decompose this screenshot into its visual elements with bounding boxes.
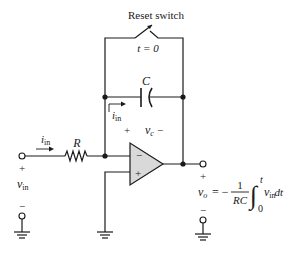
input-voltage-label: vin [17,177,29,192]
output-terminal-bottom[interactable] [200,217,206,223]
output-plus: + [200,170,206,182]
current-label-feedback: iin [112,109,121,123]
capacitor-label: C [142,74,151,88]
resistor [65,151,87,161]
vc-label: vc [145,123,154,138]
formula-equals: = − [212,185,229,199]
differential: dt [274,186,284,198]
ground-icon [97,232,113,238]
switch-time-label: t = 0 [137,42,159,54]
formula-denominator: RC [232,194,248,206]
output-terminal-top[interactable] [200,161,206,167]
reset-switch-label: Reset switch [128,9,184,21]
switch-right-wire [150,31,183,97]
opamp-inverting-sign: − [136,149,142,161]
integral-lower-limit: 0 [258,203,263,214]
junction-node-output [180,161,185,166]
noninverting-ground-wire [105,172,130,232]
integrator-circuit: Reset switch t = 0 C iin + vc − R iin + … [0,0,289,256]
input-current-label: iin [41,133,50,147]
resistor-label: R [72,136,81,150]
integral-upper-limit: t [260,174,263,185]
input-current-arrow-icon [49,147,54,152]
input-terminal-bottom[interactable] [19,213,25,219]
input-terminal-top[interactable] [19,153,25,159]
switch-left-wire [105,38,135,97]
current-arrow-icon [121,102,126,107]
input-plus: + [19,162,25,174]
output-minus: − [200,204,206,216]
input-minus: − [19,200,25,212]
ground-icon [14,232,30,238]
vc-plus: + [124,124,130,136]
vc-minus: − [157,124,163,136]
output-formula: vo = − 1 RC ∫ t 0 vin dt [198,174,284,214]
formula-numerator: 1 [237,179,243,191]
ground-icon [195,234,211,240]
output-voltage-label: vo [198,185,207,200]
opamp-noninverting-sign: + [135,167,141,179]
